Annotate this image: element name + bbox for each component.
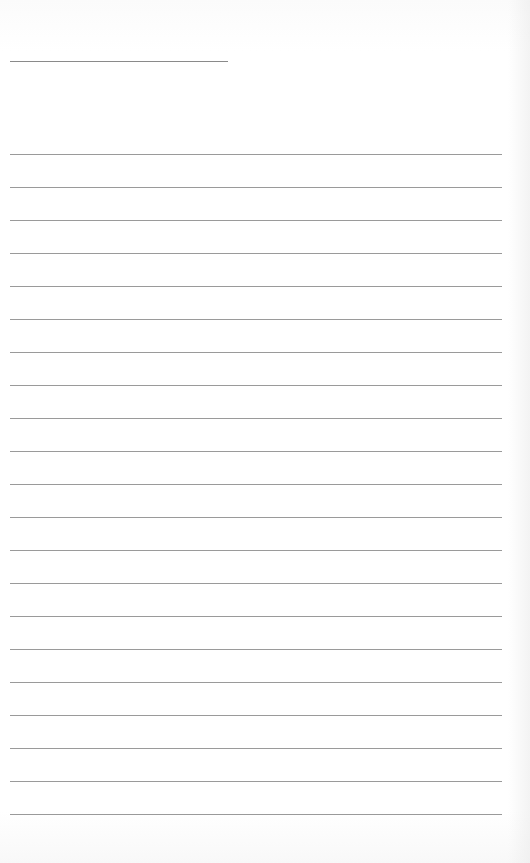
ruled-line	[10, 748, 502, 749]
ruled-line	[10, 715, 502, 716]
ruled-line	[10, 616, 502, 617]
ruled-line	[10, 154, 502, 155]
line-text[interactable]	[12, 134, 500, 154]
line-text[interactable]	[12, 629, 500, 649]
ruled-line	[10, 517, 502, 518]
page-edge-shadow	[508, 0, 530, 863]
ruled-line	[10, 682, 502, 683]
line-text[interactable]	[12, 728, 500, 748]
ruled-line	[10, 418, 502, 419]
ruled-line	[10, 253, 502, 254]
line-text[interactable]	[12, 365, 500, 385]
line-text[interactable]	[12, 200, 500, 220]
line-text[interactable]	[12, 332, 500, 352]
ruled-line	[10, 319, 502, 320]
ruled-line	[10, 352, 502, 353]
ruled-line	[10, 451, 502, 452]
line-text[interactable]	[12, 398, 500, 418]
ruled-line	[10, 385, 502, 386]
ruled-line	[10, 220, 502, 221]
line-text[interactable]	[12, 299, 500, 319]
title-field[interactable]	[12, 40, 226, 58]
line-text[interactable]	[12, 794, 500, 814]
ruled-line	[10, 814, 502, 815]
line-text[interactable]	[12, 761, 500, 781]
ruled-line	[10, 649, 502, 650]
line-text[interactable]	[12, 530, 500, 550]
line-text[interactable]	[12, 167, 500, 187]
line-text[interactable]	[12, 662, 500, 682]
line-text[interactable]	[12, 266, 500, 286]
ruled-line	[10, 484, 502, 485]
line-text[interactable]	[12, 431, 500, 451]
ruled-line	[10, 550, 502, 551]
ruled-line	[10, 187, 502, 188]
line-text[interactable]	[12, 596, 500, 616]
ruled-line	[10, 583, 502, 584]
lined-paper-page	[0, 0, 530, 863]
ruled-line	[10, 286, 502, 287]
line-text[interactable]	[12, 563, 500, 583]
line-text[interactable]	[12, 695, 500, 715]
line-text[interactable]	[12, 233, 500, 253]
line-text[interactable]	[12, 497, 500, 517]
ruled-line	[10, 781, 502, 782]
line-text[interactable]	[12, 464, 500, 484]
title-underline	[10, 61, 228, 62]
